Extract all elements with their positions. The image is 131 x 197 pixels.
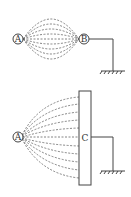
top-field-lines [23,19,79,59]
charge-b: B [79,34,89,44]
charge-a-bottom-label: A [14,132,22,142]
bottom-field-lines [22,97,79,178]
ground-wire-bottom [91,137,125,174]
electric-field-diagram: A B C A [0,0,131,197]
charge-a-bottom: A [13,132,23,142]
conducting-plate: C [79,91,91,185]
charge-a-top-label: A [14,34,22,44]
plate-label: C [82,133,89,143]
ground-wire-top [89,39,125,74]
charge-a-top: A [13,34,23,44]
charge-b-label: B [81,34,88,44]
